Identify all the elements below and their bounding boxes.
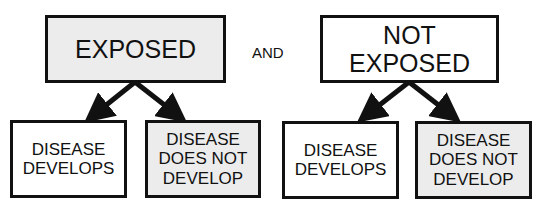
not-exposed-disease-develops-label: DISEASE DEVELOPS [293,141,388,179]
arrow-notexposed-to-develops [368,82,409,114]
not-exposed-label: NOT EXPOSED [345,21,475,77]
not-exposed-box: NOT EXPOSED [320,15,499,83]
exposed-disease-develops-box: DISEASE DEVELOPS [10,120,127,198]
not-exposed-disease-develops-box: DISEASE DEVELOPS [282,121,399,199]
not-exposed-disease-not-develop-box: DISEASE DOES NOT DEVELOP [415,121,532,199]
exposed-disease-not-develop-box: DISEASE DOES NOT DEVELOP [145,120,261,198]
exposed-label: EXPOSED [75,35,196,63]
arrow-exposed-to-develops [95,82,135,114]
and-connector: AND [252,44,284,61]
not-exposed-disease-not-develop-label: DISEASE DOES NOT DEVELOP [424,131,524,188]
exposed-box: EXPOSED [45,15,226,83]
exposed-disease-not-develop-label: DISEASE DOES NOT DEVELOP [153,130,253,187]
arrow-notexposed-to-not-develop [409,82,450,114]
exposed-disease-develops-label: DISEASE DEVELOPS [21,140,116,178]
arrow-exposed-to-not-develop [135,82,176,114]
